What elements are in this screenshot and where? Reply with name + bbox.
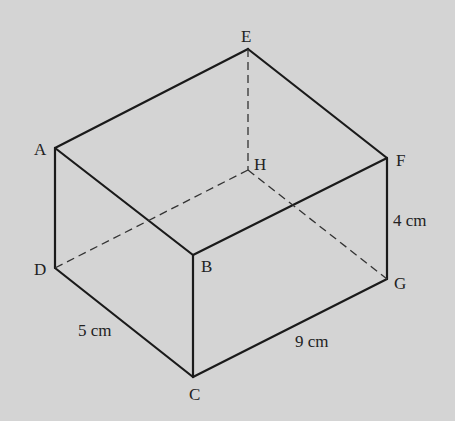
label-E: E — [241, 27, 251, 46]
height-label: 4 cm — [393, 211, 427, 230]
vertex-labels: E A H F D B G C — [34, 27, 406, 404]
edge-EF — [248, 49, 387, 158]
edge-AB — [55, 148, 193, 255]
edge-AE — [55, 49, 248, 148]
label-B: B — [201, 257, 212, 276]
dimension-labels: 4 cm 5 cm 9 cm — [78, 211, 427, 351]
prism-diagram: E A H F D B G C 4 cm 5 cm 9 cm — [0, 0, 455, 421]
label-D: D — [34, 260, 46, 279]
edge-DC — [55, 268, 193, 377]
label-F: F — [396, 151, 405, 170]
label-G: G — [394, 274, 406, 293]
hidden-edges — [55, 49, 387, 279]
length-label: 9 cm — [295, 332, 329, 351]
edge-BF — [193, 158, 387, 255]
label-H: H — [254, 155, 266, 174]
edge-CG — [193, 279, 387, 377]
width-label: 5 cm — [78, 321, 112, 340]
label-A: A — [34, 140, 47, 159]
edge-HG — [248, 170, 387, 279]
label-C: C — [189, 385, 200, 404]
edge-HD — [55, 170, 248, 268]
